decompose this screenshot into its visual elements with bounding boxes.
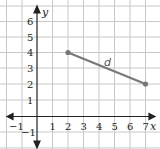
y-tick: −1: [21, 127, 36, 138]
y-tick-labels: 6 5 4 3 2 1 −1: [21, 16, 36, 138]
x-axis-label: x: [150, 120, 157, 133]
x-tick: 5: [112, 121, 118, 132]
y-tick: 2: [27, 79, 33, 90]
point-end: [143, 81, 148, 86]
x-tick: 2: [65, 121, 71, 132]
coordinate-plane: y x −1 1 2 3 4 5 6 7 6 5 4 3 2 1 −1 d: [0, 0, 160, 149]
x-tick: 3: [81, 121, 87, 132]
x-axis-left-arrow-icon: [7, 114, 13, 120]
y-axis-up-arrow-icon: [34, 6, 40, 13]
x-tick: 1: [50, 121, 56, 132]
x-tick: 6: [127, 121, 133, 132]
x-axis-right-arrow-icon: [149, 114, 155, 120]
x-axis: [7, 114, 155, 120]
x-tick: 7: [143, 121, 149, 132]
y-tick: 4: [27, 47, 33, 58]
y-tick: 6: [27, 16, 33, 27]
x-tick: 4: [96, 121, 102, 132]
y-tick: 1: [27, 95, 33, 106]
y-tick: 5: [27, 32, 33, 43]
y-axis-down-arrow-icon: [34, 141, 40, 148]
point-start: [65, 50, 70, 55]
segment-label: d: [104, 56, 112, 69]
y-tick: 3: [27, 63, 33, 74]
y-axis-label: y: [41, 6, 49, 19]
